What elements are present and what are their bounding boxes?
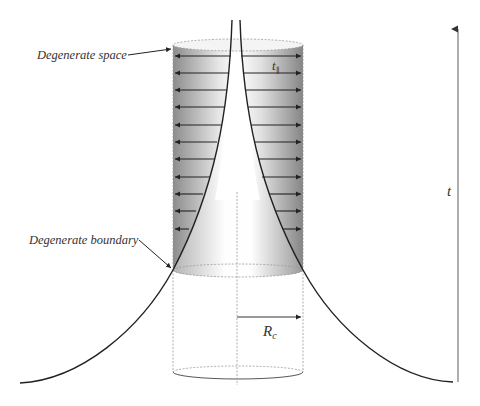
core-cylinder-bottom — [173, 372, 303, 379]
core-cylinder — [173, 270, 303, 372]
degenerate-space-diagram: Degenerate space Degenerate boundary t∥ … — [0, 0, 480, 406]
time-axis-label: t — [447, 183, 452, 199]
radius-label: Rc — [262, 323, 277, 341]
degenerate-boundary-label: Degenerate boundary — [28, 233, 139, 247]
diagram-canvas: Degenerate space Degenerate boundary t∥ … — [0, 0, 480, 406]
cylinder-top-ellipse — [173, 39, 303, 51]
degenerate-space-region — [173, 20, 303, 277]
degenerate-space-pointer — [128, 49, 171, 55]
degenerate-space-label: Degenerate space — [36, 48, 127, 62]
degenerate-boundary-pointer — [139, 240, 171, 268]
